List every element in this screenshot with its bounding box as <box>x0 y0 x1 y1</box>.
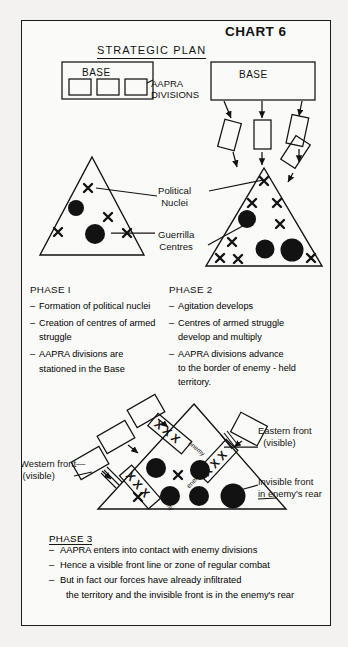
base-arrow-1 <box>224 101 231 118</box>
political-nuclei-leader-left <box>96 188 157 196</box>
phase3-division-2 <box>97 420 135 453</box>
aapra-division-box-3 <box>125 79 147 95</box>
chart-frame: CHART 6 STRATEGIC PLAN BASE BASE AAPRA D… <box>21 20 331 626</box>
political-nuclei-leader-right <box>209 180 263 191</box>
chart-page: CHART 6 STRATEGIC PLAN BASE BASE AAPRA D… <box>0 0 348 647</box>
division-arrow-1 <box>233 152 237 167</box>
base-left-box <box>62 62 153 99</box>
phase2-markers <box>216 177 315 263</box>
diagram-graphics: X X X enemy X X X enemy X X X enemy <box>22 21 331 626</box>
enemy-word-north: enemy <box>187 439 207 458</box>
guerrilla-centres-p3 <box>146 458 246 509</box>
aapra-leader-line <box>147 80 153 83</box>
base-right-box <box>211 62 315 100</box>
base-arrow-3 <box>299 101 302 116</box>
aapra-division-box-2 <box>97 79 119 95</box>
front-hatching-west <box>101 467 122 488</box>
advancing-division-1 <box>218 119 242 150</box>
invisible-front-leader-2 <box>258 498 277 499</box>
advancing-division-4 <box>281 136 311 169</box>
aapra-division-box-1 <box>69 79 91 95</box>
advancing-division-2 <box>254 120 271 149</box>
phase3-division-4 <box>231 412 268 446</box>
guerrilla-centres-p1 <box>68 200 105 244</box>
phase3-arrow-2 <box>128 445 138 453</box>
division-arrow-4 <box>288 173 293 182</box>
phase1-markers <box>54 184 131 244</box>
